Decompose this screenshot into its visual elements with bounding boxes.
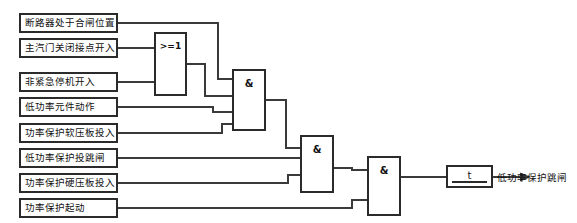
wire [117, 107, 233, 112]
wire [186, 64, 233, 96]
input-label-in3: 非紧急停机开入 [25, 77, 95, 87]
input-label-in2: 主汽门关闭接点开入 [25, 43, 115, 53]
gate-symbol-and3: & [368, 165, 400, 176]
wire [117, 175, 301, 183]
input-label-in4: 低功率元件动作 [25, 102, 95, 112]
wire [333, 168, 368, 170]
wire [117, 200, 368, 208]
output-label: 低功率保护跳闸 [497, 170, 567, 184]
gate-symbol-and2: & [301, 144, 333, 155]
input-label-in6: 低功率保护投跳闸 [25, 153, 105, 163]
input-label-in8: 功率保护起动 [25, 203, 85, 213]
gate-symbol-or1: >=1 [155, 41, 186, 51]
gate-symbol-and1: & [233, 78, 265, 89]
wire [117, 124, 233, 133]
input-label-in5: 功率保护软压板投入 [25, 128, 115, 138]
gates-group [155, 33, 400, 215]
input-label-in7: 功率保护硬压板投入 [25, 178, 115, 188]
logic-diagram: 断路器处于合闸位置主汽门关闭接点开入非紧急停机开入低功率元件动作功率保护软压板投… [0, 0, 577, 223]
timer-symbol: t [447, 170, 492, 181]
wire [265, 100, 301, 148]
input-label-in1: 断路器处于合闸位置 [25, 18, 115, 28]
